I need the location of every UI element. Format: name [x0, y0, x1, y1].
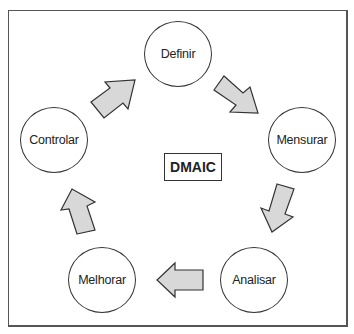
arrow-controlar-to-definir [91, 80, 135, 118]
node-mensurar: Mensurar [268, 107, 336, 173]
center-title: DMAIC [170, 159, 216, 175]
node-analisar: Analisar [220, 247, 288, 313]
node-label: Mensurar [276, 133, 327, 147]
node-controlar: Controlar [20, 107, 88, 173]
arrow-melhorar-to-controlar [61, 189, 95, 234]
arrow-mensurar-to-analisar [261, 184, 294, 232]
node-label: Melhorar [78, 273, 126, 287]
node-label: Analisar [232, 273, 276, 287]
node-label: Definir [161, 47, 196, 61]
arrow-definir-to-mensurar [214, 76, 258, 113]
node-label: Controlar [29, 133, 79, 147]
center-title-box: DMAIC [164, 153, 222, 181]
node-definir: Definir [144, 21, 212, 87]
node-melhorar: Melhorar [68, 247, 136, 313]
arrow-analisar-to-melhorar [157, 263, 203, 297]
